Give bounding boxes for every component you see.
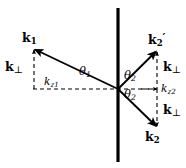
label-k2: k2 xyxy=(145,131,160,145)
label-theta2-upper: θ2 xyxy=(124,70,136,83)
label-kz1: kz1 xyxy=(44,76,59,88)
label-k1: k1 xyxy=(22,32,37,46)
label-kperp-lower-right: k⊥ xyxy=(163,104,181,118)
vector-diagram: k1 k⊥ kz1 θ1 θ2 θ2 k2′ k⊥ kz2 k⊥ k2 xyxy=(0,0,186,168)
label-kz2: kz2 xyxy=(161,83,176,95)
label-kperp-left: k⊥ xyxy=(5,61,23,75)
label-kperp-upper-right: k⊥ xyxy=(163,61,181,75)
label-theta2-lower: θ2 xyxy=(124,89,136,102)
label-theta1: θ1 xyxy=(79,66,91,79)
label-k2-prime: k2′ xyxy=(148,32,166,48)
